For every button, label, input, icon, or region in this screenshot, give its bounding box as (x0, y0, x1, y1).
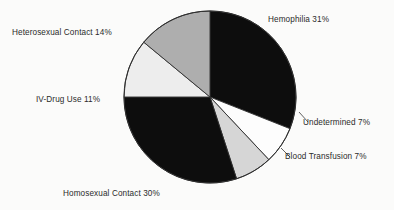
slice-label-hemophilia: Hemophilia 31% (268, 16, 329, 24)
slice-label-homosexual-contact: Homosexual Contact 30% (63, 190, 160, 198)
slice-label-undetermined: Undetermined 7% (303, 119, 370, 127)
slice-label-heterosexual-contact: Heterosexual Contact 14% (12, 29, 112, 37)
pie-slice-group (124, 11, 296, 183)
slice-label-blood-transfusion: Blood Transfusion 7% (285, 153, 367, 161)
slice-label-iv-drug-use: IV-Drug Use 11% (36, 96, 100, 104)
pie-chart-figure: Hemophilia 31% Heterosexual Contact 14% … (0, 0, 394, 210)
